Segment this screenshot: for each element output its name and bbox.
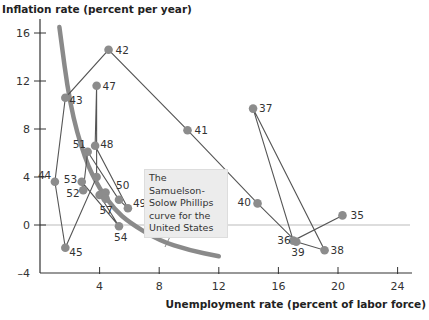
point-label-54: 54 (114, 231, 128, 243)
x-tick-label: 8 (156, 280, 163, 293)
x-tick-label: 20 (331, 280, 345, 293)
y-tick-label: 8 (23, 123, 30, 136)
point-label-35: 35 (350, 209, 363, 221)
data-point-47 (92, 82, 101, 91)
x-tick-label: 24 (391, 280, 405, 293)
y-tick-label: –4 (18, 267, 31, 280)
point-label-41: 41 (195, 124, 208, 136)
data-point-54 (115, 222, 124, 231)
point-label-52: 52 (66, 187, 79, 199)
phillips-chart: –404812164812162024353637383940414243444… (0, 0, 429, 320)
point-label-36: 36 (277, 234, 291, 246)
point-label-42: 42 (116, 44, 129, 56)
point-label-44: 44 (38, 169, 52, 181)
point-label-39: 39 (291, 246, 304, 258)
point-label-47: 47 (103, 80, 116, 92)
point-label-40: 40 (238, 196, 251, 208)
data-point-53 (77, 178, 86, 187)
data-point-49 (124, 204, 133, 213)
data-point-39 (292, 238, 301, 247)
data-point-40 (253, 199, 262, 208)
data-point-41 (183, 126, 192, 135)
data-point-37 (249, 104, 258, 113)
data-point-38 (320, 246, 329, 255)
data-point-45 (61, 244, 70, 253)
data-point-50 (115, 196, 124, 205)
point-label-51: 51 (73, 138, 86, 150)
y-tick-label: 16 (16, 27, 30, 40)
y-tick-label: 0 (23, 219, 30, 232)
point-label-45: 45 (69, 246, 82, 258)
y-tick-label: 4 (23, 171, 30, 184)
data-point-44 (51, 178, 60, 187)
point-label-53: 53 (64, 173, 77, 185)
point-label-50: 50 (116, 179, 129, 191)
x-tick-label: 16 (271, 280, 285, 293)
point-label-38: 38 (331, 244, 344, 256)
data-point-43 (61, 94, 70, 103)
point-label-48: 48 (100, 138, 113, 150)
data-point-35 (338, 211, 347, 220)
point-label-43: 43 (69, 94, 82, 106)
data-point-46 (92, 173, 101, 182)
point-label-57: 57 (100, 204, 113, 216)
point-label-37: 37 (259, 102, 272, 114)
data-point-42 (104, 46, 113, 55)
phillips-curve-callout: The Samuelson-Solow Phillips curve for t… (144, 169, 228, 238)
data-point-48 (91, 142, 100, 151)
data-point-52 (79, 186, 88, 195)
y-tick-label: 12 (16, 75, 30, 88)
data-point-57 (101, 194, 110, 203)
x-tick-label: 4 (96, 280, 103, 293)
x-tick-label: 12 (212, 280, 226, 293)
